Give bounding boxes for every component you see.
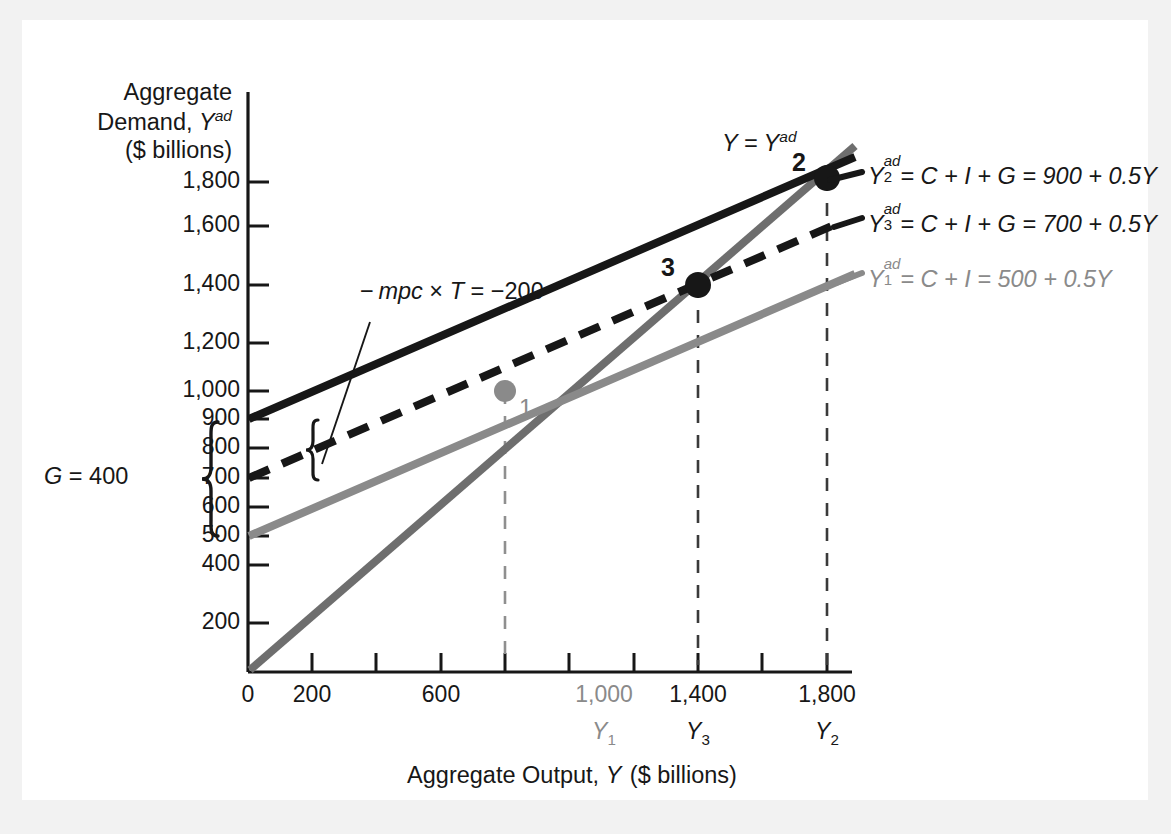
y3ad-indices: ad3	[884, 208, 900, 232]
x-tick-label-600: 600	[401, 682, 481, 708]
x-tick-label-1400: 1,400	[653, 682, 743, 708]
y3ad-label-leader	[834, 218, 862, 227]
y-symbol: Y	[199, 108, 215, 134]
point-3-marker	[685, 272, 711, 298]
x-axis-y-symbol: Y	[606, 762, 622, 788]
x-sublabel-y3: Y3	[653, 719, 743, 748]
y-axis-title-line3: ($ billions)	[22, 136, 232, 165]
figure-root: Aggregate Demand, Yad ($ billions) 1,800…	[0, 0, 1171, 834]
series-label-y2ad: Yad2= C + I + G = 900 + 0.5Y	[868, 160, 1157, 189]
series-y2ad-line	[249, 157, 855, 419]
x-tick-label-1800: 1,800	[782, 682, 872, 708]
x-sublabel-y2: Y2	[782, 719, 872, 748]
y-tick-label-1000: 1,000	[92, 377, 240, 403]
y-tick-label-1200: 1,200	[92, 329, 240, 355]
point-3-label: 3	[661, 253, 675, 281]
y-axis-title: Aggregate Demand, Yad ($ billions)	[22, 78, 232, 165]
y-tick-label-1800: 1,800	[92, 168, 240, 194]
point-1-marker	[494, 380, 516, 402]
y1ad-base: Y	[868, 266, 884, 292]
y-tick-label-800: 800	[92, 434, 240, 460]
series-label-y1ad: Yad1= C + I = 500 + 0.5Y	[868, 263, 1112, 292]
y3ad-base: Y	[868, 211, 884, 237]
y2ad-equation: = C + I + G = 900 + 0.5Y	[900, 163, 1157, 189]
times-sign: ×	[423, 278, 450, 304]
point-1-label: 1	[519, 395, 532, 422]
x-tick-label-0: 0	[218, 682, 278, 708]
y-tick-label-900: 900	[92, 405, 240, 431]
g-annotation-label: G = 400	[44, 463, 128, 489]
y2ad-base: Y	[868, 163, 884, 189]
t-symbol: T	[450, 278, 464, 304]
y2ad-indices: ad2	[884, 160, 900, 184]
y-tick-label-1400: 1,400	[92, 271, 240, 297]
series-label-y3ad: Yad3= C + I + G = 700 + 0.5Y	[868, 208, 1157, 237]
ad-superscript: ad	[779, 128, 796, 145]
y1ad-indices: ad1	[884, 263, 900, 287]
y-equals-yad-text: Y = Y	[722, 130, 779, 156]
y-tick-label-400: 400	[92, 551, 240, 577]
series-label-45-degree: Y = Yad	[722, 128, 797, 156]
x-sublabel-y1: Y1	[559, 719, 649, 748]
ad-superscript: ad	[215, 107, 232, 124]
x-axis-title-text: Aggregate Output,	[407, 762, 606, 788]
x-tick-label-200: 200	[272, 682, 352, 708]
y-tick-label-500: 500	[92, 522, 240, 548]
y-axis-title-line2: Demand, Yad	[22, 107, 232, 136]
g-value: = 400	[62, 463, 128, 489]
y1ad-equation: = C + I = 500 + 0.5Y	[900, 266, 1112, 292]
x-axis-title-units: ($ billions)	[621, 762, 737, 788]
g-symbol: G	[44, 463, 62, 489]
x-axis-title: Aggregate Output, Y ($ billions)	[352, 762, 792, 788]
x-axis-ticks	[312, 653, 827, 672]
y-tick-label-200: 200	[92, 609, 240, 635]
y-axis-title-line1: Aggregate	[22, 78, 232, 107]
mpc-annotation-label: − mpc × T = −200	[360, 278, 544, 304]
y-tick-label-600: 600	[92, 493, 240, 519]
mpc-symbol: mpc	[378, 278, 422, 304]
figure-plate: Aggregate Demand, Yad ($ billions) 1,800…	[22, 20, 1148, 800]
point-2-label: 2	[792, 148, 806, 176]
y-tick-label-1600: 1,600	[92, 212, 240, 238]
mpc-leader-line	[322, 322, 370, 464]
mpc-value: = −200	[464, 278, 544, 304]
y-axis-ticks	[248, 182, 269, 623]
y3ad-equation: = C + I + G = 700 + 0.5Y	[900, 211, 1157, 237]
x-tick-label-1000: 1,000	[559, 682, 649, 708]
series-y1ad-line	[249, 274, 855, 536]
series-y3ad-dashed-line	[249, 225, 834, 478]
